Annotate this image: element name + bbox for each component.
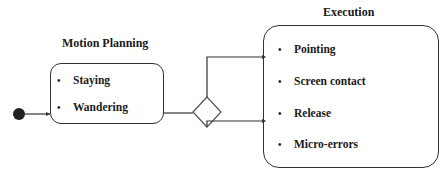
- item-label: Wandering: [73, 101, 128, 113]
- execution-item: •Micro-errors: [278, 138, 358, 150]
- motion-planning-box: •Staying •Wandering: [50, 63, 164, 124]
- bullet-icon: •: [57, 102, 73, 113]
- bullet-icon: •: [278, 108, 294, 119]
- item-label: Release: [294, 107, 331, 119]
- motion-planning-title: Motion Planning: [62, 36, 148, 51]
- branch-bottom: [207, 121, 265, 127]
- execution-item: •Release: [278, 107, 331, 119]
- motion-item: •Wandering: [57, 101, 128, 113]
- initial-node-icon: [13, 108, 25, 120]
- execution-title: Execution: [323, 5, 374, 20]
- execution-box: •Pointing •Screen contact •Release •Micr…: [263, 25, 439, 168]
- item-label: Screen contact: [294, 75, 366, 87]
- item-label: Pointing: [294, 43, 336, 55]
- execution-item: •Screen contact: [278, 75, 366, 87]
- item-label: Staying: [73, 74, 110, 86]
- item-label: Micro-errors: [294, 138, 358, 150]
- bullet-icon: •: [57, 75, 73, 86]
- bullet-icon: •: [278, 44, 294, 55]
- bullet-icon: •: [278, 76, 294, 87]
- branch-top: [207, 57, 265, 97]
- motion-item: •Staying: [57, 74, 110, 86]
- bullet-icon: •: [278, 139, 294, 150]
- execution-item: •Pointing: [278, 43, 336, 55]
